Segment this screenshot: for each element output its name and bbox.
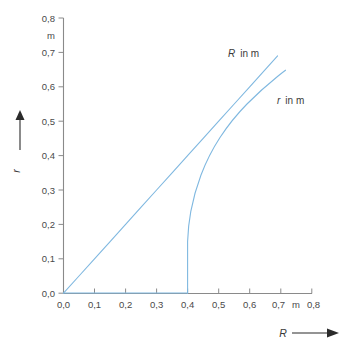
x-axis-group: 0,0 0,1 0,2 0,3 0,4 0,5 0,6 0,7 0,8 m <box>57 289 320 311</box>
y-tick-label: 0,3 <box>42 185 55 196</box>
x-tick-label: 0,6 <box>243 299 256 310</box>
x-axis-unit-label: m <box>292 299 300 310</box>
r-equals-R-line <box>64 56 278 293</box>
x-axis-name-group: R <box>279 327 339 339</box>
y-tick-label: 0,0 <box>42 288 55 299</box>
x-tick-label: 0,5 <box>212 299 225 310</box>
data-series-group <box>64 56 286 293</box>
series-label-R: Rin m <box>228 48 259 59</box>
x-axis-tick-labels: 0,0 0,1 0,2 0,3 0,4 0,5 0,6 0,7 0,8 <box>57 299 320 310</box>
y-axis-unit-label: m <box>47 30 55 41</box>
y-axis-tick-labels: 0,8 0,7 0,6 0,5 0,4 0,3 0,2 0,1 0,0 <box>42 13 55 299</box>
series-unit-r: in m <box>285 95 304 106</box>
x-tick-label: 0,8 <box>307 299 320 310</box>
y-tick-label: 0,8 <box>42 13 55 24</box>
y-tick-label: 0,7 <box>42 47 55 58</box>
series-symbol-r: r <box>277 95 281 106</box>
y-axis-group: 0,8 0,7 0,6 0,5 0,4 0,3 0,2 0,1 0,0 m <box>42 13 64 299</box>
x-axis-arrow-head <box>327 329 339 338</box>
x-axis-name: R <box>279 327 287 339</box>
y-tick-label: 0,2 <box>42 219 55 230</box>
series-symbol-R: R <box>228 48 235 59</box>
x-tick-label: 0,7 <box>272 299 285 310</box>
x-tick-label: 0,1 <box>88 299 101 310</box>
y-axis-ticks <box>59 18 64 293</box>
y-axis-name: r <box>10 169 22 173</box>
y-axis-arrow-head <box>16 110 25 120</box>
x-tick-label: 0,2 <box>119 299 132 310</box>
series-label-r: rin m <box>277 95 304 106</box>
x-tick-label: 0,0 <box>57 299 70 310</box>
x-tick-label: 0,4 <box>181 299 194 310</box>
r-curve-series <box>188 70 286 293</box>
series-unit-R: in m <box>240 48 259 59</box>
y-tick-label: 0,6 <box>42 81 55 92</box>
y-tick-label: 0,4 <box>42 150 55 161</box>
chart-figure: 0,8 0,7 0,6 0,5 0,4 0,3 0,2 0,1 0,0 m <box>0 0 349 349</box>
chart-canvas: 0,8 0,7 0,6 0,5 0,4 0,3 0,2 0,1 0,0 m <box>0 0 349 349</box>
y-axis-name-group: r <box>10 110 25 173</box>
y-tick-label: 0,5 <box>42 116 55 127</box>
x-tick-label: 0,3 <box>150 299 163 310</box>
y-tick-label: 0,1 <box>42 253 55 264</box>
series-annotations: Rin m rin m <box>228 48 304 106</box>
